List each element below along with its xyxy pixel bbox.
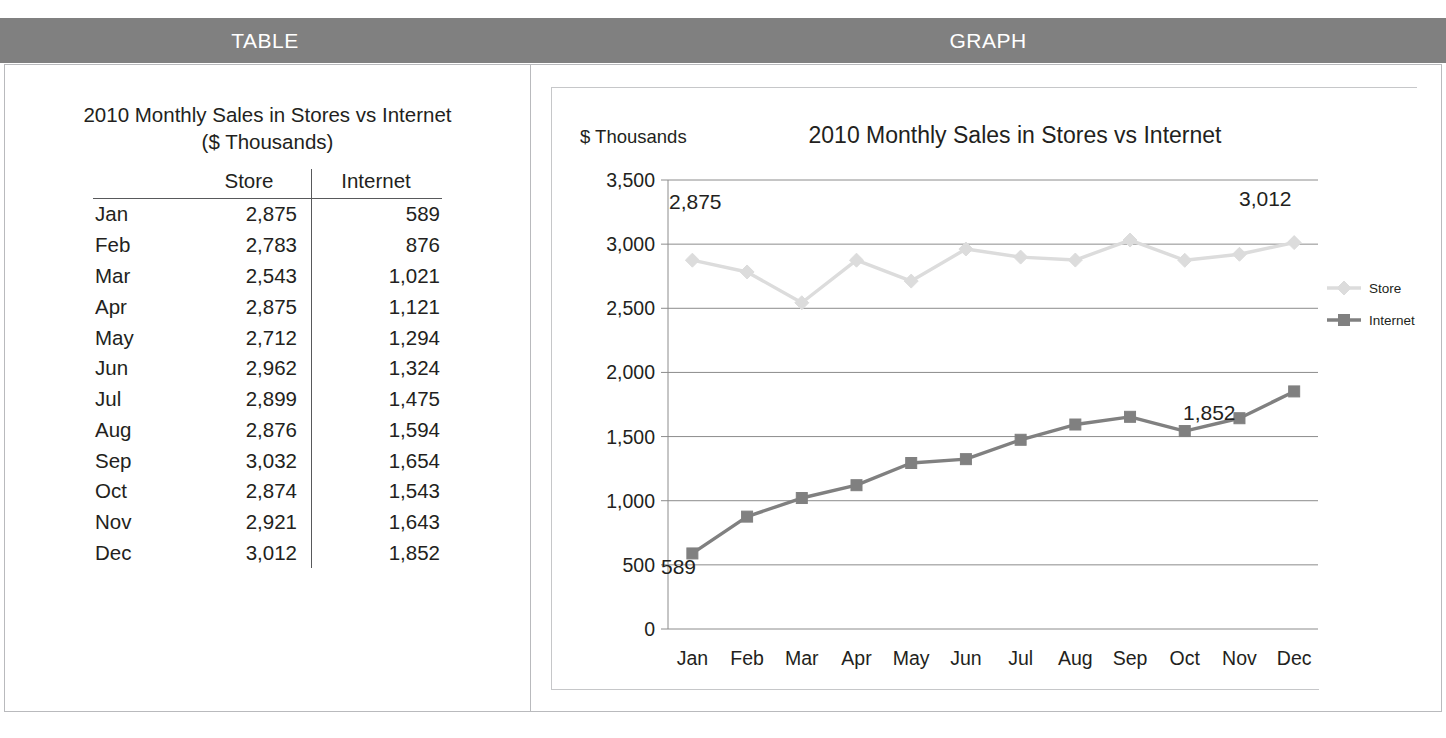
column-header-month [93,169,187,199]
cell-store: 2,962 [187,353,312,384]
data-point-marker [1179,426,1190,437]
table-row: Apr2,8751,121 [93,291,442,322]
data-point-marker [1068,253,1082,267]
cell-store: 2,921 [187,507,312,538]
table-title-line2: ($ Thousands) [202,130,334,153]
cell-store: 3,032 [187,445,312,476]
xtick-label: Sep [1113,647,1148,669]
xtick-label: Oct [1170,647,1201,669]
data-point-marker [1339,315,1350,326]
table-row: Sep3,0321,654 [93,445,442,476]
data-annotation: 589 [661,555,696,578]
cell-store: 2,783 [187,230,312,261]
ytick-label: 2,500 [606,297,655,319]
table-title: 2010 Monthly Sales in Stores vs Internet… [5,101,530,155]
cell-internet: 1,543 [312,476,443,507]
cell-month: Mar [93,261,187,292]
data-point-marker [960,454,971,465]
data-point-marker [796,493,807,504]
ytick-label: 2,000 [606,361,655,383]
cell-internet: 1,475 [312,384,443,415]
table-row: Feb2,783876 [93,230,442,261]
series-line-store [692,240,1294,303]
xtick-label: Feb [730,647,764,669]
cell-store: 2,875 [187,291,312,322]
table-header-row: Store Internet [93,169,442,199]
cell-store: 2,899 [187,384,312,415]
cell-month: Oct [93,476,187,507]
table-panel: 2010 Monthly Sales in Stores vs Internet… [5,65,530,711]
graph-section-label: GRAPH [530,18,1446,63]
data-point-marker [906,457,917,468]
xtick-label: Nov [1222,647,1257,669]
cell-month: Aug [93,414,187,445]
data-point-marker [1178,253,1192,267]
table-row: Aug2,8761,594 [93,414,442,445]
xtick-label: Apr [841,647,872,669]
xtick-label: Dec [1277,647,1312,669]
data-point-marker [685,253,699,267]
data-point-marker [851,480,862,491]
ytick-label: 1,500 [606,426,655,448]
cell-internet: 1,121 [312,291,443,322]
cell-internet: 876 [312,230,443,261]
xtick-label: Mar [785,647,819,669]
table-row: May2,7121,294 [93,322,442,353]
table-row: Oct2,8741,543 [93,476,442,507]
ytick-label: 1,000 [606,490,655,512]
ytick-label: 0 [644,618,655,640]
cell-month: Sep [93,445,187,476]
legend-label: Internet [1369,313,1415,328]
ytick-label: 500 [622,554,655,576]
cell-internet: 1,594 [312,414,443,445]
plot-right-mask [1319,88,1418,691]
legend-label: Store [1369,281,1401,296]
graph-panel: $ Thousands 2010 Monthly Sales in Stores… [531,65,1442,711]
data-point-marker [1232,247,1246,261]
data-annotation: 1,852 [1183,401,1236,424]
cell-store: 2,712 [187,322,312,353]
data-point-marker [1287,236,1301,250]
sales-table: Store Internet Jan2,875589Feb2,783876Mar… [93,169,442,568]
cell-internet: 1,324 [312,353,443,384]
cell-store: 2,543 [187,261,312,292]
table-row: Mar2,5431,021 [93,261,442,292]
data-point-marker [740,265,754,279]
data-point-marker [1289,386,1300,397]
cell-store: 2,874 [187,476,312,507]
data-point-marker [1070,419,1081,430]
cell-month: Jan [93,199,187,230]
table-body: Jan2,875589Feb2,783876Mar2,5431,021Apr2,… [93,199,442,569]
table-row: Nov2,9211,643 [93,507,442,538]
cell-month: Feb [93,230,187,261]
line-chart-svg: 3,5003,0002,5002,0001,5001,0005000JanFeb… [552,88,1418,691]
cell-month: May [93,322,187,353]
data-point-marker [1014,250,1028,264]
table-row: Dec3,0121,852 [93,538,442,569]
cell-internet: 1,021 [312,261,443,292]
data-point-marker [904,274,918,288]
cell-internet: 1,852 [312,538,443,569]
data-annotation: 2,875 [669,190,722,213]
table-row: Jun2,9621,324 [93,353,442,384]
xtick-label: Jul [1008,647,1033,669]
data-point-marker [1234,413,1245,424]
cell-store: 3,012 [187,538,312,569]
column-header-internet: Internet [312,169,443,199]
cell-internet: 1,643 [312,507,443,538]
ytick-label: 3,500 [606,169,655,191]
xtick-label: Jun [950,647,981,669]
cell-internet: 1,294 [312,322,443,353]
table-section-label: TABLE [0,18,530,63]
ytick-label: 3,000 [606,233,655,255]
data-annotation: 3,012 [1239,187,1292,210]
xtick-label: Jan [677,647,708,669]
cell-internet: 589 [312,199,443,230]
data-point-marker [742,511,753,522]
section-header-band: TABLE GRAPH [0,18,1446,63]
table-row: Jan2,875589 [93,199,442,230]
xtick-label: May [893,647,930,669]
chart-box: $ Thousands 2010 Monthly Sales in Stores… [551,87,1417,690]
cell-month: Nov [93,507,187,538]
cell-month: Apr [93,291,187,322]
